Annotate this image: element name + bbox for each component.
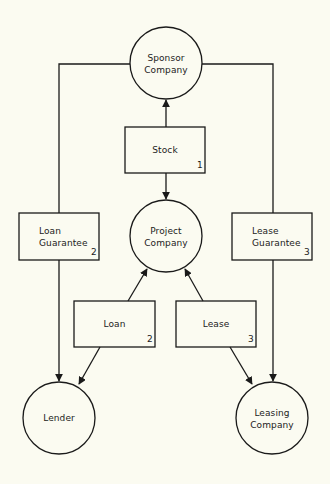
loan-label: Loan — [74, 318, 155, 330]
leasing-line1: Leasing — [232, 407, 312, 419]
sponsor-left-connector — [59, 64, 130, 213]
sponsor-line1: Sponsor — [126, 52, 206, 64]
loan-guarantee-label: Loan Guarantee — [39, 225, 88, 249]
lease-guarantee-number: 3 — [304, 247, 310, 257]
lease-guarantee-label: Lease Guarantee — [252, 225, 301, 249]
lease-to-project-arrow — [185, 269, 203, 301]
leasing-line2: Company — [232, 419, 312, 431]
loan-to-lender-arrow — [79, 347, 100, 384]
lease-label: Lease — [176, 318, 256, 330]
lender-label: Lender — [19, 412, 99, 424]
project-company-label: Project Company — [126, 225, 206, 249]
sponsor-company-label: Sponsor Company — [126, 52, 206, 76]
lease-number: 3 — [248, 334, 254, 344]
lease-guarantee-line1: Lease — [252, 225, 301, 237]
stock-label: Stock — [125, 144, 205, 156]
sponsor-right-connector — [202, 64, 273, 213]
loan-number: 2 — [147, 334, 153, 344]
loan-to-project-arrow — [128, 269, 147, 301]
stock-number: 1 — [197, 160, 203, 170]
loan-guarantee-line1: Loan — [39, 225, 88, 237]
lease-guarantee-line2: Guarantee — [252, 237, 301, 249]
project-line1: Project — [126, 225, 206, 237]
lease-to-leasing-arrow — [230, 347, 252, 384]
leasing-company-label: Leasing Company — [232, 407, 312, 431]
lender-text: Lender — [19, 412, 99, 424]
project-line2: Company — [126, 237, 206, 249]
sponsor-line2: Company — [126, 64, 206, 76]
loan-guarantee-number: 2 — [91, 247, 97, 257]
loan-guarantee-line2: Guarantee — [39, 237, 88, 249]
